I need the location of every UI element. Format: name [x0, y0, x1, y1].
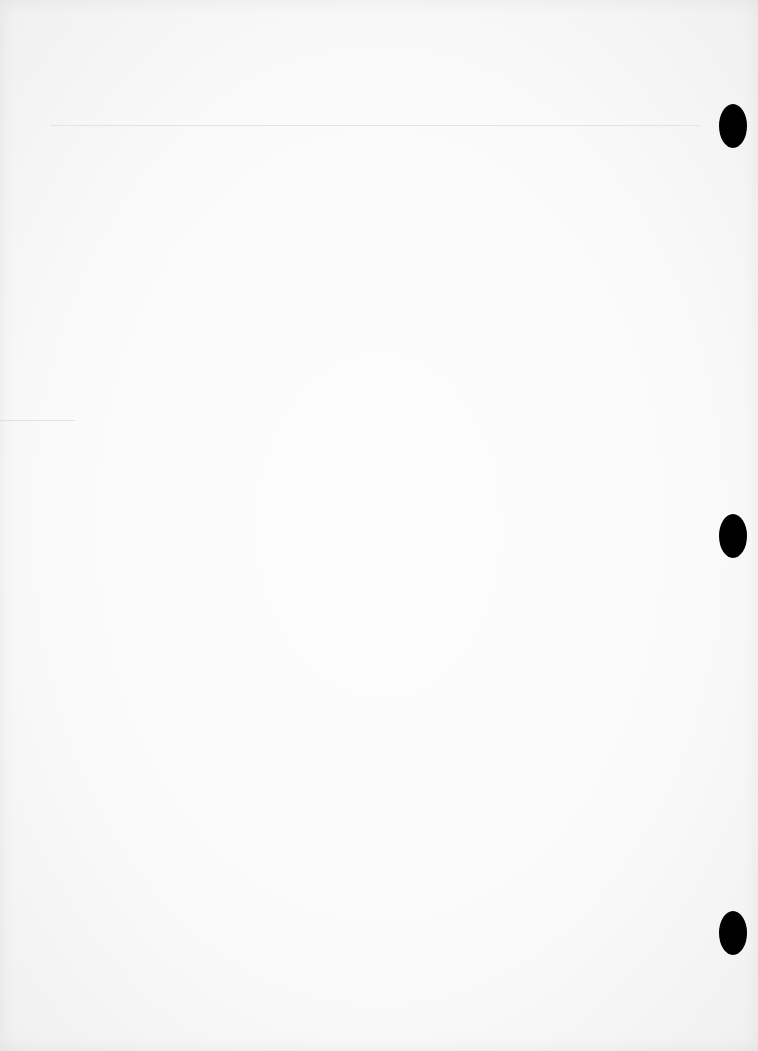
faint-horizontal-rule-top [50, 125, 700, 126]
blank-paper-page [0, 0, 758, 1051]
punch-hole-top [719, 104, 747, 148]
paper-edge-shading [0, 0, 758, 1051]
punch-hole-middle [719, 514, 747, 558]
punch-hole-bottom [719, 911, 747, 955]
faint-horizontal-rule-left [0, 420, 75, 421]
